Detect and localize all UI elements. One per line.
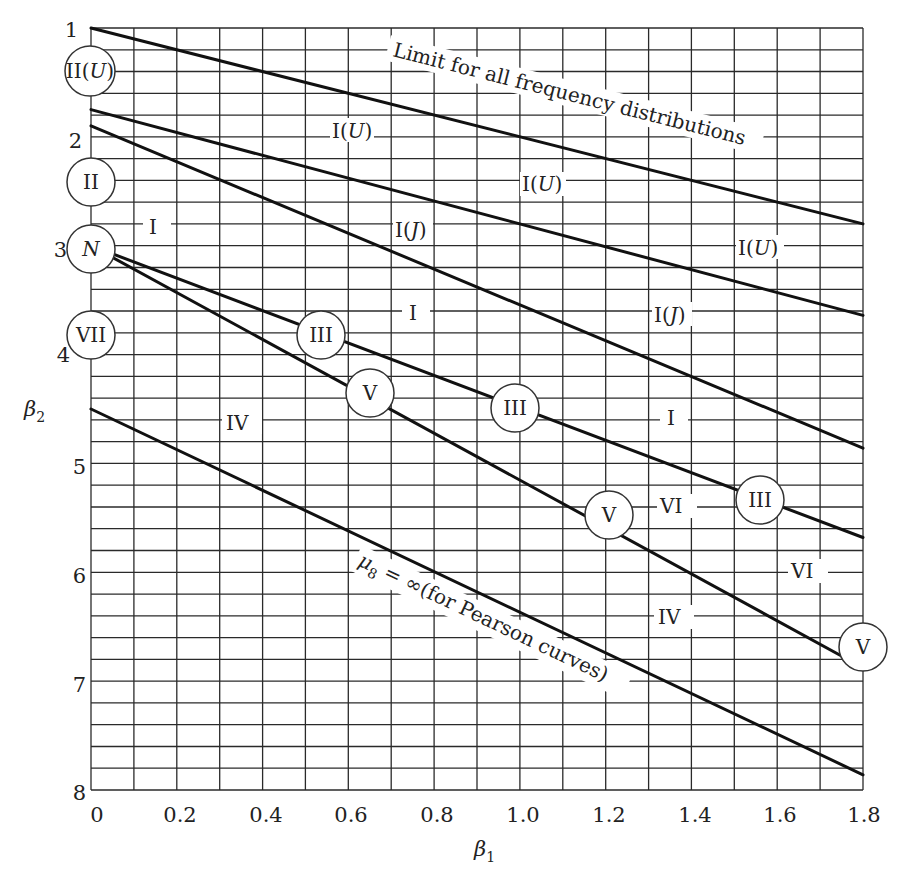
- region-label-ij-2: I(J): [652, 302, 692, 327]
- svg-text:VI: VI: [659, 494, 682, 518]
- svg-text:IV: IV: [226, 411, 249, 435]
- svg-text:6: 6: [73, 564, 86, 588]
- svg-text:V: V: [362, 381, 378, 405]
- svg-text:0.4: 0.4: [249, 803, 282, 827]
- circle-iii-2: III: [491, 384, 539, 432]
- region-label-vi-2: VI: [788, 559, 828, 583]
- region-label-iv-1: IV: [222, 410, 262, 435]
- circle-iii-1: III: [297, 311, 345, 359]
- svg-text:V: V: [601, 503, 617, 527]
- svg-text:2: 2: [69, 129, 82, 153]
- x-axis-title: β1: [473, 837, 495, 865]
- svg-text:VI: VI: [790, 559, 813, 583]
- circle-ii-u: II(U): [65, 46, 115, 96]
- svg-text:I(U): I(U): [738, 236, 778, 260]
- circle-v-2: V: [585, 491, 633, 539]
- svg-text:4: 4: [57, 343, 70, 367]
- svg-text:VII: VII: [75, 323, 106, 347]
- region-label-i-3: I: [660, 406, 688, 430]
- svg-text:0.2: 0.2: [163, 803, 196, 827]
- svg-text:7: 7: [73, 673, 86, 697]
- svg-text:I: I: [149, 215, 157, 239]
- y-axis-ticks: 1 2 3 4 5 6 7 8: [54, 18, 86, 805]
- svg-text:V: V: [855, 635, 871, 659]
- svg-text:III: III: [748, 488, 772, 512]
- svg-text:I(J): I(J): [654, 303, 686, 327]
- region-label-vi-1: VI: [657, 494, 697, 518]
- mu8-annotation: μ8 = ∞(for Pearson curves): [350, 545, 634, 699]
- x-axis-ticks: 0 0.2 0.4 0.6 0.8 1.0 1.2 1.4 1.6 1.8: [90, 803, 880, 827]
- svg-text:1.0: 1.0: [506, 803, 539, 827]
- circle-iii-3: III: [736, 476, 784, 524]
- circle-v-3: V: [839, 623, 887, 671]
- svg-text:IV: IV: [658, 605, 681, 629]
- svg-text:II: II: [83, 170, 99, 194]
- circle-n: N: [67, 225, 115, 273]
- circle-vii: VII: [67, 311, 115, 359]
- region-label-iu-1: I(U): [330, 118, 374, 143]
- svg-text:5: 5: [73, 455, 86, 479]
- pearson-chart: Limit for all frequency distributions μ8…: [0, 0, 902, 870]
- circle-ii: II: [67, 158, 115, 206]
- svg-text:1.6: 1.6: [763, 803, 796, 827]
- svg-text:1.8: 1.8: [847, 803, 880, 827]
- region-label-i-2: I: [402, 301, 430, 325]
- region-label-iu-3: I(U): [736, 235, 784, 260]
- svg-text:μ8 = ∞(for Pearson curves): μ8 = ∞(for Pearson curves): [353, 548, 612, 690]
- svg-text:8: 8: [73, 781, 86, 805]
- svg-text:1.4: 1.4: [678, 803, 711, 827]
- svg-text:I: I: [409, 301, 417, 325]
- region-label-iv-2: IV: [654, 605, 694, 629]
- svg-text:I(U): I(U): [522, 172, 562, 196]
- svg-text:0.6: 0.6: [334, 803, 367, 827]
- region-label-ij-1: I(J): [393, 217, 433, 242]
- region-label-iu-2: I(U): [520, 172, 566, 196]
- svg-text:III: III: [503, 396, 527, 420]
- svg-text:0.8: 0.8: [420, 803, 453, 827]
- svg-text:III: III: [309, 323, 333, 347]
- svg-text:I(U): I(U): [332, 119, 372, 143]
- svg-text:II(U): II(U): [66, 59, 114, 83]
- circle-v-1: V: [346, 369, 394, 417]
- svg-text:3: 3: [54, 238, 67, 262]
- y-axis-title: β2: [23, 397, 45, 425]
- svg-text:0: 0: [90, 803, 103, 827]
- svg-text:I(J): I(J): [395, 218, 427, 242]
- svg-text:1: 1: [65, 18, 78, 42]
- svg-text:I: I: [667, 406, 675, 430]
- region-label-i-1: I: [143, 214, 171, 239]
- svg-text:N: N: [81, 237, 101, 261]
- svg-text:1.2: 1.2: [592, 803, 625, 827]
